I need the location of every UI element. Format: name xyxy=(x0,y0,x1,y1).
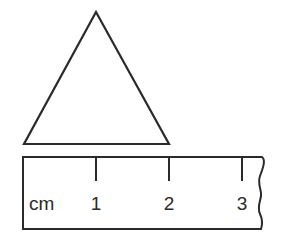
triangle-shape xyxy=(24,12,169,144)
tick-label-1: 1 xyxy=(91,193,102,214)
ruler-outline xyxy=(23,157,264,229)
ruler-ticks xyxy=(96,157,242,181)
tick-label-3: 3 xyxy=(237,193,248,214)
diagram-canvas: cm 1 2 3 xyxy=(0,0,284,240)
ruler-unit-label: cm xyxy=(29,193,54,214)
tick-label-2: 2 xyxy=(164,193,175,214)
